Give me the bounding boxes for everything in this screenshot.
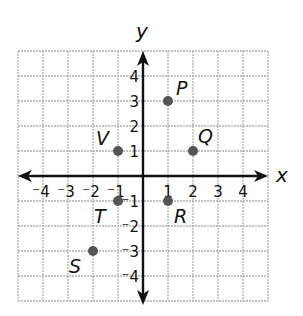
point-s — [88, 246, 98, 256]
y-tick-label: ⁻3 — [122, 243, 139, 261]
x-tick-label: ⁻3 — [57, 183, 74, 201]
axes: x y — [18, 19, 288, 305]
x-tick-label: 2 — [188, 183, 198, 201]
y-tick-label: ⁻4 — [122, 268, 139, 286]
y-axis-label: y — [135, 19, 149, 43]
y-tick-label: 2 — [129, 118, 139, 136]
point-label-r: R — [174, 205, 187, 227]
x-tick-label: ⁻4 — [32, 183, 49, 201]
point-label-v: V — [96, 127, 111, 149]
point-label-s: S — [69, 255, 81, 277]
point-r — [163, 196, 173, 206]
point-q — [188, 146, 198, 156]
point-label-q: Q — [198, 125, 213, 147]
x-tick-label: ⁻2 — [82, 183, 99, 201]
x-tick-label: 3 — [213, 183, 223, 201]
y-tick-label: 4 — [129, 68, 139, 86]
coordinate-plane: x y ⁻4⁻3⁻2⁻112344321⁻1⁻2⁻3⁻4 PQRSTV — [0, 0, 303, 316]
y-tick-label: 1 — [129, 143, 139, 161]
x-axis-label: x — [275, 163, 288, 187]
y-tick-label: 3 — [129, 93, 139, 111]
point-label-t: T — [94, 205, 107, 227]
x-tick-label: 4 — [238, 183, 248, 201]
point-label-p: P — [176, 77, 188, 99]
y-tick-label: ⁻2 — [122, 218, 139, 236]
point-p — [163, 96, 173, 106]
point-v — [113, 146, 123, 156]
y-tick-label: ⁻1 — [122, 193, 139, 211]
point-t — [113, 196, 123, 206]
